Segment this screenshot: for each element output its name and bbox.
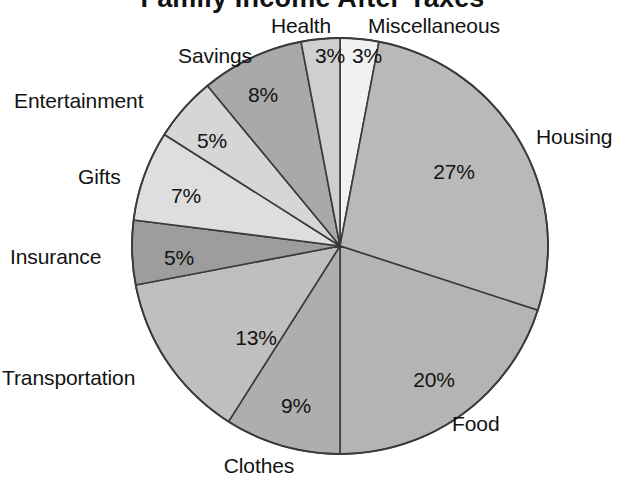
- slice-value-health: 3%: [315, 44, 345, 68]
- category-label-food: Food: [452, 412, 499, 436]
- category-label-insurance: Insurance: [10, 245, 101, 269]
- slice-value-food: 20%: [413, 368, 454, 392]
- pie-chart-figure: Family Income After Taxes 3% 3% 8% 5% 7%…: [0, 0, 625, 480]
- slice-value-miscellaneous: 3%: [352, 44, 382, 68]
- slice-value-entertainment: 5%: [197, 129, 227, 153]
- category-label-health: Health: [271, 14, 331, 38]
- category-label-housing: Housing: [536, 125, 612, 149]
- pie-chart-canvas: [0, 0, 625, 480]
- slice-value-insurance: 5%: [164, 246, 194, 270]
- pie-slices-group: [132, 38, 548, 454]
- slice-value-clothes: 9%: [281, 394, 311, 418]
- category-label-gifts: Gifts: [78, 165, 121, 189]
- category-label-entertainment: Entertainment: [14, 89, 143, 113]
- category-label-transportation: Transportation: [2, 366, 135, 390]
- slice-value-savings: 8%: [248, 83, 278, 107]
- category-label-miscellaneous: Miscellaneous: [368, 14, 500, 38]
- category-label-clothes: Clothes: [224, 454, 295, 478]
- slice-value-gifts: 7%: [171, 184, 201, 208]
- slice-value-transportation: 13%: [235, 326, 276, 350]
- category-label-savings: Savings: [178, 44, 252, 68]
- slice-value-housing: 27%: [433, 160, 474, 184]
